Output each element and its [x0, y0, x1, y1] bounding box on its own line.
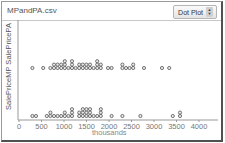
data-point-salepricemp[interactable]	[60, 114, 63, 117]
data-point-salepricepa[interactable]	[96, 63, 99, 66]
data-point-salepricepa[interactable]	[96, 66, 99, 69]
data-point-salepricepa[interactable]	[49, 66, 52, 69]
data-point-salepricemp[interactable]	[63, 111, 66, 114]
x-tick-label: 0	[17, 122, 21, 131]
data-point-salepricepa[interactable]	[92, 66, 95, 69]
data-point-salepricepa[interactable]	[96, 60, 99, 63]
data-point-salepricemp[interactable]	[85, 108, 88, 111]
data-point-salepricepa[interactable]	[52, 66, 55, 69]
data-point-salepricepa[interactable]	[70, 63, 73, 66]
x-tick-label: 3500	[168, 122, 185, 131]
data-point-salepricepa[interactable]	[121, 63, 124, 66]
data-point-salepricepa[interactable]	[70, 60, 73, 63]
data-point-salepricepa[interactable]	[63, 66, 66, 69]
data-point-salepricemp[interactable]	[96, 114, 99, 117]
data-point-salepricemp[interactable]	[70, 108, 73, 111]
x-tick-label: 1000	[56, 122, 73, 131]
data-point-salepricemp[interactable]	[70, 111, 73, 114]
data-point-salepricemp[interactable]	[81, 111, 84, 114]
data-point-salepricemp[interactable]	[88, 108, 91, 111]
data-point-salepricemp[interactable]	[92, 114, 95, 117]
data-point-salepricemp[interactable]	[78, 114, 81, 117]
data-point-salepricemp[interactable]	[99, 114, 102, 117]
data-point-salepricepa[interactable]	[78, 66, 81, 69]
data-point-salepricemp[interactable]	[178, 114, 181, 117]
data-point-salepricemp[interactable]	[85, 114, 88, 117]
data-point-salepricepa[interactable]	[63, 63, 66, 66]
data-point-salepricepa[interactable]	[121, 66, 124, 69]
data-point-salepricemp[interactable]	[85, 111, 88, 114]
data-point-salepricemp[interactable]	[171, 114, 174, 117]
data-point-salepricepa[interactable]	[78, 63, 81, 66]
data-point-salepricemp[interactable]	[81, 114, 84, 117]
data-point-salepricemp[interactable]	[52, 114, 55, 117]
data-point-salepricemp[interactable]	[110, 114, 113, 117]
data-point-salepricemp[interactable]	[49, 111, 52, 114]
data-point-salepricepa[interactable]	[60, 66, 63, 69]
data-point-salepricemp[interactable]	[70, 114, 73, 117]
data-point-salepricepa[interactable]	[88, 63, 91, 66]
data-point-salepricepa[interactable]	[99, 66, 102, 69]
data-point-salepricemp[interactable]	[56, 114, 59, 117]
data-point-salepricepa[interactable]	[31, 66, 34, 69]
data-point-salepricepa[interactable]	[168, 66, 171, 69]
data-point-salepricepa[interactable]	[52, 63, 55, 66]
data-point-salepricepa[interactable]	[99, 63, 102, 66]
data-point-salepricepa[interactable]	[63, 60, 66, 63]
data-point-salepricemp[interactable]	[99, 108, 102, 111]
data-point-salepricemp[interactable]	[49, 114, 52, 117]
data-point-salepricepa[interactable]	[142, 66, 145, 69]
data-point-salepricepa[interactable]	[56, 63, 59, 66]
data-point-salepricepa[interactable]	[128, 66, 131, 69]
data-point-salepricemp[interactable]	[45, 114, 48, 117]
data-point-salepricemp[interactable]	[121, 114, 124, 117]
plot-area: 05001000150020002500300035004000	[0, 0, 225, 143]
data-point-salepricemp[interactable]	[88, 114, 91, 117]
data-point-salepricemp[interactable]	[31, 114, 34, 117]
data-point-salepricemp[interactable]	[63, 114, 66, 117]
data-point-salepricemp[interactable]	[67, 114, 70, 117]
data-point-salepricepa[interactable]	[56, 66, 59, 69]
data-point-salepricepa[interactable]	[110, 66, 113, 69]
data-point-salepricepa[interactable]	[60, 63, 63, 66]
data-point-salepricemp[interactable]	[88, 111, 91, 114]
data-point-salepricemp[interactable]	[81, 108, 84, 111]
data-point-salepricemp[interactable]	[34, 114, 37, 117]
data-point-salepricepa[interactable]	[160, 66, 163, 69]
data-point-salepricepa[interactable]	[81, 63, 84, 66]
x-tick-label: 500	[35, 122, 48, 131]
x-tick-label: 4000	[191, 122, 208, 131]
data-point-salepricemp[interactable]	[178, 111, 181, 114]
data-point-salepricepa[interactable]	[124, 66, 127, 69]
data-point-salepricemp[interactable]	[78, 111, 81, 114]
data-point-salepricepa[interactable]	[132, 63, 135, 66]
x-axis-label: thousands	[92, 128, 127, 137]
data-point-salepricepa[interactable]	[132, 66, 135, 69]
x-tick-label: 3000	[146, 122, 163, 131]
data-point-salepricepa[interactable]	[85, 63, 88, 66]
data-point-salepricepa[interactable]	[106, 66, 109, 69]
data-point-salepricepa[interactable]	[81, 66, 84, 69]
data-point-salepricemp[interactable]	[139, 114, 142, 117]
data-point-salepricemp[interactable]	[99, 111, 102, 114]
data-point-salepricepa[interactable]	[85, 66, 88, 69]
data-point-salepricepa[interactable]	[88, 66, 91, 69]
data-point-salepricepa[interactable]	[42, 66, 45, 69]
data-point-salepricepa[interactable]	[70, 66, 73, 69]
data-point-salepricepa[interactable]	[67, 66, 70, 69]
data-point-salepricepa[interactable]	[74, 66, 77, 69]
